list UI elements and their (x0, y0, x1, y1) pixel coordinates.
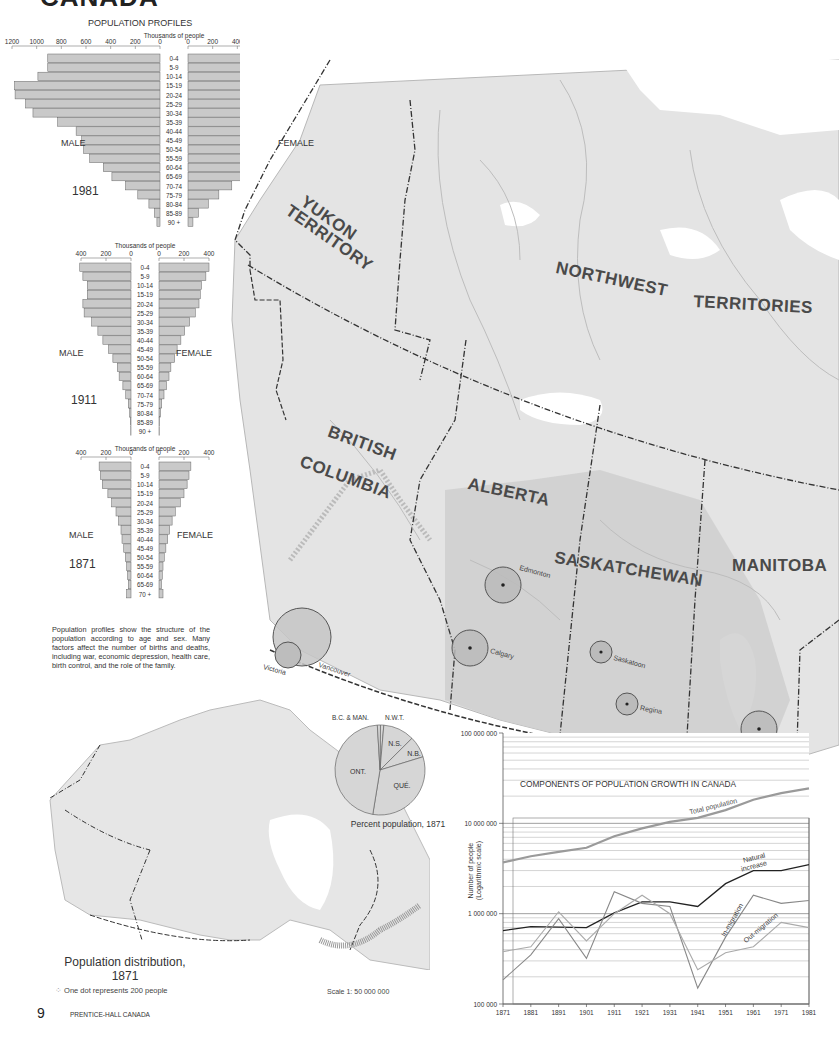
pyramid-age-label: 40-44 (137, 337, 154, 344)
pyramid-bar-male (102, 480, 131, 489)
pyramid-tick-label: 200 (101, 449, 112, 456)
pyramid-bar-female (159, 471, 189, 480)
pyramid-age-label: 0-4 (140, 264, 150, 271)
pyramid-bar-male (15, 90, 160, 99)
x-tick-label: 1961 (746, 1009, 761, 1016)
pyramid-bar-female (159, 363, 171, 372)
pyramid-age-label: 40-44 (166, 128, 183, 135)
pyramid-bar-female (188, 154, 240, 163)
y-tick-label: 100 000 (474, 1001, 498, 1008)
pyramid-bar-male (83, 272, 131, 281)
pyramid-tick-label: 600 (81, 38, 92, 45)
x-tick-label: 1931 (663, 1009, 678, 1016)
pyramid-bar-male (87, 281, 131, 290)
pyramid-age-label: 65-69 (137, 382, 154, 389)
pyramid-age-label: 45-49 (137, 545, 154, 552)
pyramid-age-label: 55-59 (137, 563, 154, 570)
inset-scale: Scale 1: 50 000 000 (327, 988, 389, 995)
pyramid-age-label: 75-79 (137, 401, 154, 408)
pyramid-bar-female (159, 462, 191, 471)
pyramid-bar-male (127, 562, 131, 571)
pie-title: Percent population, 1871 (351, 819, 446, 829)
pyramid-age-label: 25-29 (137, 310, 154, 317)
pyramid-bar-female (188, 191, 219, 200)
pyramid-age-label: 65-69 (166, 173, 183, 180)
pyramid-age-label: 15-19 (137, 490, 154, 497)
pyramid-bar-female (159, 290, 200, 299)
label-manitoba: MANITOBA (732, 556, 827, 576)
pyramid-bar-male (116, 508, 131, 517)
pyramid-bar-female (159, 381, 167, 390)
pie-label: N.W.T. (385, 714, 404, 721)
pyramid-age-label: 35-39 (137, 328, 154, 335)
pie-chart-1871: ONT.QUÉ.N.B.N.S.B.C. & MAN.N.W.T.Percent… (310, 700, 450, 830)
pyramid-1911-male-label: MALE (59, 348, 84, 358)
pyramid-bar-male (128, 400, 131, 409)
pyramid-bar-female (188, 209, 198, 218)
pyramid-tick-label: 200 (101, 250, 112, 257)
pyramid-bar-male (33, 109, 160, 118)
pyramid-age-label: 70-74 (166, 183, 183, 190)
pyramid-bar-male (58, 118, 160, 127)
pyramid-bar-female (188, 172, 240, 181)
publisher: PRENTICE-HALL CANADA (70, 1011, 150, 1018)
pyramid-tick-label: 0 (157, 449, 161, 456)
pyramid-age-label: 60-64 (137, 572, 154, 579)
pyramid-bar-male (138, 191, 160, 200)
pyramid-bar-male (128, 580, 131, 589)
pyramid-age-label: 20-24 (137, 301, 154, 308)
pyramid-age-label: 75-79 (166, 192, 183, 199)
pyramid-bar-female (159, 589, 163, 598)
x-tick-label: 1971 (774, 1009, 789, 1016)
population-profiles-description: Population profiles show the structure o… (52, 625, 210, 670)
pyramid-bar-female (188, 200, 208, 209)
x-tick-label: 1871 (496, 1009, 511, 1016)
pyramid-age-label: 55-59 (137, 364, 154, 371)
pyramid-bar-female (159, 400, 162, 409)
pyramid-tick-label: 1000 (29, 38, 44, 45)
pyramid-tick-label: 400 (76, 250, 87, 257)
pyramid-bar-male (26, 100, 160, 109)
pyramid-tick-label: 200 (179, 449, 190, 456)
pyramid-bar-male (117, 363, 131, 372)
pyramid-bar-female (159, 409, 161, 418)
pyramid-bar-male (108, 489, 131, 498)
pyramid-1871: Thousands of people002002004004000-45-91… (76, 445, 215, 598)
pyramid-tick-label: 0 (157, 250, 161, 257)
pyramid-age-label: 0-4 (140, 463, 150, 470)
pyramid-age-label: 5-9 (169, 64, 179, 71)
y-tick-label: 10 000 000 (464, 820, 497, 827)
pyramid-age-label: 50-54 (137, 554, 154, 561)
pyramid-tick-label: 200 (207, 38, 218, 45)
pyramid-bar-male (130, 418, 131, 427)
pyramid-tick-label: 800 (56, 38, 67, 45)
x-tick-label: 1891 (551, 1009, 566, 1016)
pyramid-age-label: 10-14 (137, 282, 154, 289)
pyramid-age-label: 45-49 (166, 137, 183, 144)
pyramid-age-label: 25-29 (137, 509, 154, 516)
pyramid-age-label: 90 + (139, 428, 152, 435)
pie-label: N.S. (388, 740, 402, 747)
pyramid-age-label: 35-39 (137, 527, 154, 534)
pyramid-bar-male (87, 290, 131, 299)
pyramid-1981-male-label: MALE (61, 138, 86, 148)
pyramid-bar-female (159, 263, 209, 272)
pyramid-age-label: 15-19 (166, 82, 183, 89)
x-tick-label: 1941 (690, 1009, 705, 1016)
pyramid-tick-label: 400 (76, 449, 87, 456)
x-tick-label: 1911 (607, 1009, 621, 1016)
pyramid-bar-female (159, 372, 169, 381)
pie-label: QUÉ. (393, 781, 410, 790)
pyramid-bar-male (121, 526, 131, 535)
pyramid-age-label: 25-29 (166, 101, 183, 108)
pyramid-bar-male (157, 218, 160, 227)
pyramid-bar-female (159, 544, 166, 553)
pyramid-bar-female (159, 562, 163, 571)
dot-legend-icon: ⁘ (55, 986, 62, 995)
pyramid-age-label: 70 + (139, 591, 152, 598)
chart-title: COMPONENTS OF POPULATION GROWTH IN CANAD… (520, 779, 737, 789)
pyramid-1871-female-label: FEMALE (177, 530, 213, 540)
pyramid-bar-male (90, 154, 160, 163)
pyramid-bar-female (188, 163, 240, 172)
pyramid-bar-male (48, 54, 160, 63)
